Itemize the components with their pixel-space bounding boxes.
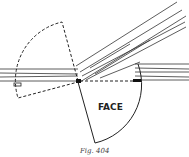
slanted-board: [76, 2, 186, 82]
figure-caption: Fig. 404: [79, 147, 109, 155]
horizontal-board: [0, 64, 189, 81]
joint-diagram: FACE Fig. 404: [0, 0, 189, 157]
face-label: FACE: [98, 102, 123, 112]
pivot-marker-right: [133, 79, 141, 82]
dashed-arc: [15, 22, 78, 98]
pivot-marker: [76, 79, 81, 83]
